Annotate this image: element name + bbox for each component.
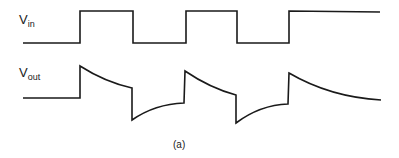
vin-label: Vin — [19, 12, 35, 29]
vout-waveform — [23, 66, 381, 123]
vin-waveform — [23, 11, 380, 43]
vout-label: Vout — [19, 65, 40, 82]
waveform-canvas — [0, 0, 399, 158]
waveform-figure: Vin Vout (a) — [0, 0, 399, 158]
figure-caption: (a) — [173, 139, 185, 150]
